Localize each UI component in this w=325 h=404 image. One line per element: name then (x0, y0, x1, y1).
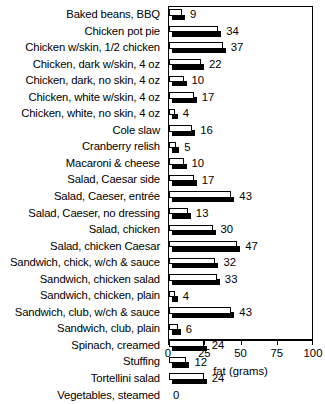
category-label: Cole slaw (0, 122, 164, 139)
bar-value-label: 6 (186, 323, 192, 336)
bar-value-label: 22 (209, 58, 222, 71)
bar-top-face (169, 158, 184, 164)
bar-row: 17 (169, 90, 312, 107)
bar-top-face (169, 125, 192, 131)
bar-top-face (169, 9, 182, 15)
x-axis-tick (312, 340, 313, 345)
bar (169, 274, 220, 285)
bar (169, 307, 234, 318)
bars-container: 9343722101741651017431330473233443624122… (169, 7, 312, 339)
bar (169, 258, 218, 269)
category-label: Macaroni & cheese (0, 155, 164, 172)
category-label: Salad, Caeser, no dressing (0, 205, 164, 222)
x-axis-tick (277, 340, 278, 345)
x-axis-tick-label: 50 (234, 347, 247, 360)
bar-row: 17 (169, 173, 312, 190)
category-label: Stuffing (0, 353, 164, 370)
bar-value-label: 47 (245, 240, 258, 253)
x-axis-title: fat (grams) (168, 365, 313, 377)
bar-row: 9 (169, 7, 312, 24)
bar-value-label: 43 (239, 190, 252, 203)
category-label: Sandwich, chicken, plain (0, 287, 164, 304)
bar (169, 92, 197, 103)
bar-top-face (169, 191, 231, 197)
x-axis: 0255075100 (168, 340, 313, 341)
bar-row: 43 (169, 189, 312, 206)
bar-value-label: 37 (231, 41, 244, 54)
bar-top-face (169, 59, 201, 65)
bar-value-label: 30 (221, 223, 234, 236)
bar-value-label: 34 (226, 25, 239, 38)
bar-row: 34 (169, 24, 312, 41)
bar (169, 158, 187, 169)
x-axis-tick (168, 340, 169, 345)
bar-value-label: 13 (196, 207, 209, 220)
bar-value-label: 17 (202, 91, 215, 104)
bar-top-face (169, 241, 237, 247)
bar (169, 225, 216, 236)
bar (169, 241, 240, 252)
category-label: Chicken pot pie (0, 23, 164, 40)
bar-row: 10 (169, 156, 312, 173)
x-axis-tick-label: 25 (198, 347, 211, 360)
category-label: Sandwich, club, plain (0, 320, 164, 337)
bar (169, 175, 197, 186)
bar-value-label: 33 (225, 273, 238, 286)
bar (169, 125, 195, 136)
category-label: Sandwich, club, w/ch & sauce (0, 304, 164, 321)
category-label-column: Baked beans, BBQChicken pot pieChicken w… (0, 6, 164, 403)
bar-value-label: 32 (223, 256, 236, 269)
x-axis-tick (241, 340, 242, 345)
bar-row: 37 (169, 40, 312, 57)
bar-value-label: 17 (202, 174, 215, 187)
bar (169, 59, 204, 70)
category-label: Cranberry relish (0, 138, 164, 155)
category-label: Chicken, white w/skin, 4 oz (0, 89, 164, 106)
bar-top-face (169, 42, 223, 48)
bar-value-label: 9 (190, 8, 196, 21)
bar-row: 4 (169, 106, 312, 123)
bar-row: 22 (169, 57, 312, 74)
bar (169, 324, 181, 335)
category-label: Sandwich, chicken salad (0, 271, 164, 288)
bar-top-face (169, 109, 175, 115)
bar-top-face (169, 92, 194, 98)
bar-value-label: 10 (192, 74, 205, 87)
bar (169, 191, 234, 202)
bar-value-label: 16 (200, 124, 213, 137)
bar-value-label: 4 (183, 290, 189, 303)
category-label: Salad, chicken (0, 221, 164, 238)
bar (169, 291, 178, 302)
x-axis-tick-label: 0 (165, 347, 171, 360)
category-label: Salad, chicken Caesar (0, 238, 164, 255)
bar-value-label: 10 (192, 157, 205, 170)
category-label: Salad, Caesar side (0, 171, 164, 188)
bar-top-face (169, 274, 217, 280)
category-label: Salad, Caeser, entrée (0, 188, 164, 205)
category-label: Chicken, dark w/skin, 4 oz (0, 56, 164, 73)
bar-top-face (169, 291, 175, 297)
bar-value-label: 43 (239, 306, 252, 319)
bar (169, 9, 185, 20)
bar-row: 5 (169, 139, 312, 156)
x-axis-tick-label: 75 (270, 347, 283, 360)
plot-area: 9343722101741651017431330473233443624122… (168, 6, 313, 340)
bar (169, 76, 187, 87)
bar-value-label: 0 (173, 389, 179, 402)
category-label: Chicken, white, no skin, 4 oz (0, 105, 164, 122)
category-label: Vegetables, steamed (0, 387, 164, 404)
bar-value-label: 5 (184, 141, 190, 154)
category-label: Tortellini salad (0, 370, 164, 387)
category-label: Chicken, dark, no skin, 4 oz (0, 72, 164, 89)
category-label: Chicken w/skin, 1/2 chicken (0, 39, 164, 56)
bar-top-face (169, 357, 186, 363)
bar-top-face (169, 340, 204, 346)
x-axis-tick (204, 340, 205, 345)
bar-row: 4 (169, 288, 312, 305)
bar-row: 16 (169, 123, 312, 140)
bar-row: 30 (169, 222, 312, 239)
bar-row: 0 (169, 388, 312, 404)
bar-top-face (169, 324, 178, 330)
bar (169, 208, 191, 219)
